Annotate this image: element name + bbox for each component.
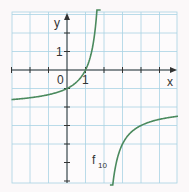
function-graph: x y 0 1 1 f 10 <box>0 0 189 192</box>
origin-label: 0 <box>57 73 64 87</box>
y-tick-label-1: 1 <box>56 45 63 59</box>
x-axis-label: x <box>167 75 173 89</box>
curve-label-subscript: 10 <box>98 161 107 170</box>
y-axis-label: y <box>54 16 60 30</box>
